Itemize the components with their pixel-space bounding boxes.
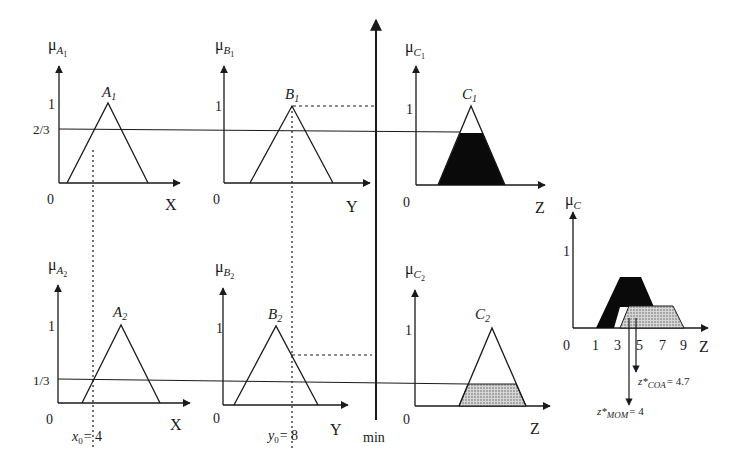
plot-c2: μC2 C2 1 0 Z xyxy=(403,260,550,437)
clipped-area-c1 xyxy=(438,133,505,185)
membership-triangle-a1 xyxy=(67,103,148,183)
z-axis-label: Z xyxy=(530,420,540,437)
coa-label: z*COA= 4.7 xyxy=(637,375,690,390)
set-label-b2: B2 xyxy=(268,306,282,324)
tick-label: 7 xyxy=(659,338,666,353)
plot-aggregate: μC 1 0 1 3 5 7 9 Z z*COA= 4.7 z*MOM= 4 xyxy=(563,191,709,420)
set-label-b1: B1 xyxy=(285,86,299,104)
mu-axis-label: μB2 xyxy=(215,258,234,281)
tick-one: 1 xyxy=(48,97,55,112)
tick-one: 1 xyxy=(48,319,55,334)
tick-one: 1 xyxy=(406,102,413,117)
level-label-1-3: 1/3 xyxy=(33,373,50,388)
origin-label: 0 xyxy=(213,192,220,207)
tick-label: 1 xyxy=(592,338,599,353)
rule1-firing-level-line xyxy=(59,129,460,132)
mu-axis-label: μC xyxy=(565,191,582,211)
x-axis-label: X xyxy=(165,196,177,213)
set-label-a1: A1 xyxy=(101,84,116,102)
tick-one: 1 xyxy=(215,99,222,114)
y-axis-label: Y xyxy=(346,198,358,215)
membership-triangle-b2 xyxy=(234,326,318,405)
origin-label: 0 xyxy=(46,412,53,427)
tick-one: 1 xyxy=(563,244,570,259)
set-label-c2: C2 xyxy=(475,306,490,324)
y-axis-label: Y xyxy=(330,421,342,438)
tick-label: 3 xyxy=(614,338,621,353)
x-axis-label: X xyxy=(170,416,182,433)
origin-label: 0 xyxy=(213,411,220,426)
z-axis-label: Z xyxy=(699,338,709,355)
set-label-c1: C1 xyxy=(462,86,477,104)
mom-label: z*MOM= 4 xyxy=(596,405,644,420)
mu-axis-label: μA2 xyxy=(48,256,67,279)
mu-axis-label: μA1 xyxy=(48,36,67,59)
origin-label: 0 xyxy=(403,195,410,210)
clipped-area-c2 xyxy=(459,384,526,406)
tick-one: 1 xyxy=(405,323,412,338)
z-axis-label: Z xyxy=(535,199,545,216)
tick-one: 1 xyxy=(216,321,223,336)
mu-axis-label: μB1 xyxy=(215,36,234,59)
tick-label: 9 xyxy=(680,338,687,353)
mu-axis-label: μC2 xyxy=(405,260,425,283)
level-label-2-3: 2/3 xyxy=(33,122,50,137)
mu-axis-label: μC1 xyxy=(405,38,425,61)
rule2-firing-level-line xyxy=(58,379,468,384)
set-label-a2: A2 xyxy=(112,304,127,322)
membership-triangle-a2 xyxy=(82,325,160,403)
plot-a1: μA1 A1 1 2/3 0 X xyxy=(33,36,180,213)
y0-label: y0= 8 xyxy=(266,428,298,445)
plot-b1: μB1 B1 1 0 Y xyxy=(213,36,376,215)
x0-label: x0= 4 xyxy=(71,429,102,446)
tick-label: 5 xyxy=(636,338,643,353)
plot-c1: μC1 C1 1 0 Z xyxy=(403,38,545,216)
plot-a2: μA2 A2 1 1/3 0 X xyxy=(33,256,190,433)
min-operator-label: min xyxy=(363,430,385,445)
origin-label: 0 xyxy=(47,192,54,207)
diagram-svg: μA1 A1 1 2/3 0 X μB1 B1 1 0 Y μC1 C1 1 0… xyxy=(0,0,742,470)
origin-label: 0 xyxy=(403,412,410,427)
fuzzy-inference-diagram: μA1 A1 1 2/3 0 X μB1 B1 1 0 Y μC1 C1 1 0… xyxy=(0,0,742,470)
tick-label: 0 xyxy=(563,338,570,353)
